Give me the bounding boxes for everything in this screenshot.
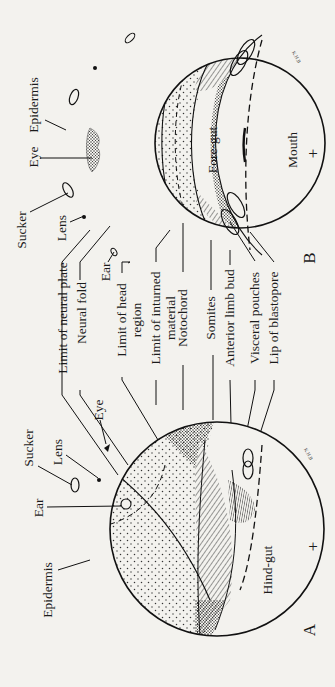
limit-head-label: Limit of head	[114, 283, 129, 357]
a-eye-label: Eye	[91, 400, 106, 421]
a-sucker-label: Sucker	[21, 429, 36, 467]
b-eye-label: Eye	[26, 147, 41, 168]
panel-b: Mouth Fore-gut + B K.H.B Epidermis Eye S…	[14, 20, 335, 281]
lip-blastopore-label: Lip of blastopore	[266, 272, 281, 365]
b-plus-sign: +	[308, 144, 318, 163]
panel-a: Hind-gut + A K.H.B Sucker Lens Ear Eye E…	[21, 400, 324, 641]
b-cavity-label: Fore-gut	[205, 127, 220, 174]
somites-label: Somites	[203, 296, 218, 340]
eye-b	[86, 128, 99, 172]
neural-fold-label: Neural fold	[74, 282, 89, 344]
a-panel-letter: A	[300, 623, 319, 636]
visceral-pouches-label: Visceral pouches	[247, 272, 262, 364]
b-lens-label: Lens	[54, 215, 69, 241]
a-artist-initials: K.H.B	[303, 447, 314, 461]
eye-a	[104, 444, 110, 452]
head-region-label-line2: region	[129, 303, 144, 338]
a-ear-label: Ear	[31, 498, 46, 517]
a-lens-label: Lens	[50, 439, 65, 465]
b-panel-letter: B	[300, 252, 319, 263]
anterior-limb-bud-label: Anterior limb bud	[222, 269, 237, 367]
limit-inturned-label: Limit of inturned	[148, 271, 163, 364]
b-artist-initials: K.H.B	[291, 50, 302, 64]
embryo-diagram: Mouth Fore-gut + B K.H.B Epidermis Eye S…	[0, 0, 335, 687]
a-cavity-label: Hind-gut	[260, 545, 275, 594]
b-mouth-label: Mouth	[285, 132, 300, 168]
b-sucker-label: Sucker	[14, 211, 29, 249]
a-plus-sign: +	[308, 537, 318, 556]
b-epidermis-label: Epidermis	[26, 77, 41, 133]
a-epidermis-label: Epidermis	[40, 562, 55, 618]
mouth-mark	[244, 128, 246, 162]
b-ear-label: Ear	[98, 262, 113, 281]
notochord-label: Notochord	[175, 289, 190, 347]
